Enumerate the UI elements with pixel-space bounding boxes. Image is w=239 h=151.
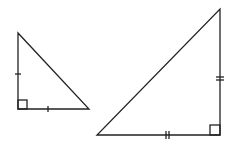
large-triangle [97,9,224,139]
large-right-angle-marker [210,125,220,135]
small-right-angle-marker [18,100,27,109]
large-triangle-outline [97,9,220,135]
diagram-canvas [0,0,239,151]
small-triangle-outline [18,33,89,109]
small-triangle [15,33,89,112]
